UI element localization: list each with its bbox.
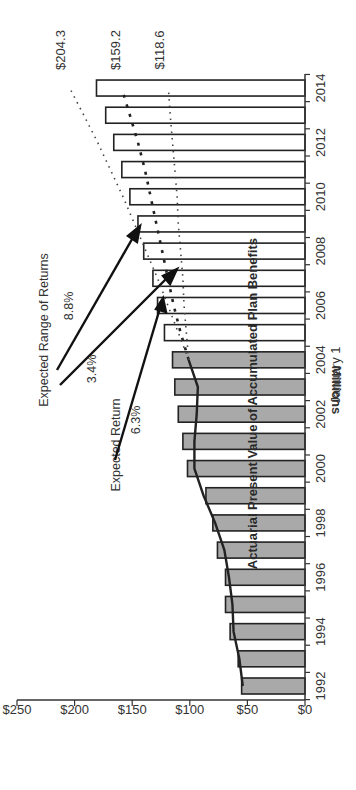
bar-2010 (130, 189, 305, 205)
year-axis-label: 2006 (313, 291, 328, 320)
arrowhead-icon (128, 226, 140, 242)
bar-2001 (183, 433, 305, 449)
value-axis-label: $250 (3, 702, 32, 717)
year-axis-label: 1992 (313, 672, 328, 701)
bar-1995 (226, 596, 305, 612)
range-title: Expected Range of Returns (37, 253, 51, 407)
year-axis-label: 1994 (313, 617, 328, 646)
bar-2013 (106, 107, 305, 123)
year-axis-label: 2002 (313, 400, 328, 429)
chart-stage: $0$50$100$150$200$2501992199419961998200… (0, 0, 356, 790)
year-axis-label: 2012 (313, 128, 328, 157)
arrow-6-3 (115, 308, 160, 460)
x-axis-title: January 1 (328, 346, 343, 403)
bar-2012 (114, 134, 305, 150)
range-high-label: 8.8% (62, 292, 76, 321)
year-axis-label: 2014 (313, 74, 328, 103)
bar-2003 (175, 379, 305, 395)
year-axis-label: 2000 (313, 454, 328, 483)
bar-2011 (122, 162, 305, 178)
end-label-mid: $159.2 (108, 30, 123, 70)
end-label-high: $204.3 (53, 30, 68, 70)
bar-2014 (96, 80, 305, 96)
bar-1992 (242, 678, 305, 694)
bar-chart: $0$50$100$150$200$2501992199419961998200… (0, 0, 356, 790)
apv-series-label: Actuarial Present Value of Accumulated P… (245, 238, 260, 569)
bar-1993 (238, 651, 305, 667)
year-axis-label: 2008 (313, 237, 328, 266)
value-axis-label: $150 (118, 702, 147, 717)
expected-return-rate: 6.3% (129, 406, 143, 435)
value-axis-label: $0 (298, 702, 312, 717)
bar-2004 (173, 352, 305, 368)
year-axis-label: 1998 (313, 508, 328, 537)
value-axis-label: $100 (175, 702, 204, 717)
bar-2006 (158, 297, 305, 313)
bar-1994 (230, 624, 305, 640)
end-label-low: $118.6 (152, 31, 167, 70)
value-axis-label: $50 (237, 702, 259, 717)
year-axis-label: 1996 (313, 563, 328, 592)
bar-2009 (138, 216, 305, 232)
bars-group (96, 80, 305, 694)
bar-2008 (144, 243, 305, 259)
year-axis-label: 2004 (313, 345, 328, 374)
expected-return-title: Expected Return (109, 398, 123, 491)
value-axis-label: $200 (60, 702, 89, 717)
bar-1996 (226, 569, 305, 585)
year-axis-label: 2010 (313, 182, 328, 211)
bar-1997 (217, 542, 305, 558)
